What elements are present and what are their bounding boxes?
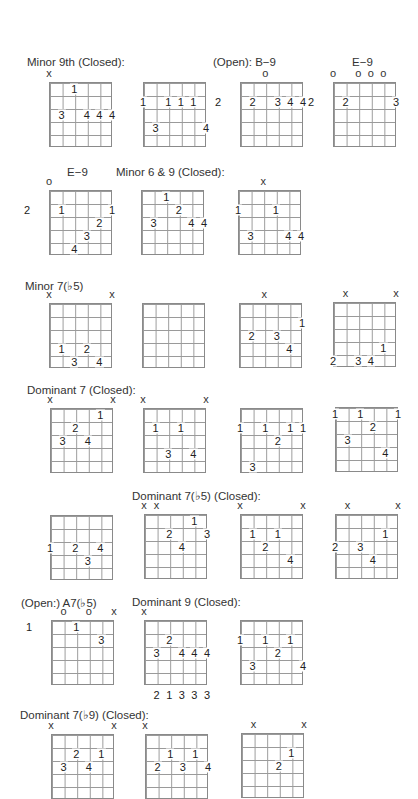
finger-number: 4 — [285, 343, 293, 354]
chord-diagram: x1234 — [239, 303, 302, 368]
chord-diagram: x11344 — [238, 190, 301, 255]
chord-diagram: 111134 — [143, 82, 206, 147]
finger-number: 1 — [249, 528, 257, 539]
fretboard-grid — [335, 514, 398, 579]
chord-diagram: 111234 — [335, 407, 398, 472]
section-label: Minor 7(♭5) — [25, 279, 83, 293]
finger-number: 1 — [381, 528, 389, 539]
finger-number: 2 — [175, 204, 183, 215]
open-string-marker: o — [86, 606, 92, 617]
finger-number: 2 — [274, 435, 282, 446]
finger-number: 3 — [60, 761, 68, 772]
chord-diagram: xx1234 — [333, 302, 396, 367]
finger-number: 1 — [108, 204, 116, 215]
finger-number: 4 — [381, 447, 389, 458]
finger-number: 2 — [248, 330, 256, 341]
chord-diagram: o112342 — [49, 190, 112, 255]
finger-number: 1 — [272, 204, 280, 215]
finger-number: 4 — [286, 96, 294, 107]
fretboard-grid — [143, 408, 206, 473]
fretboard-grid — [333, 302, 396, 367]
chord-diagram: 111234 — [240, 620, 303, 685]
finger-number: 3 — [273, 330, 281, 341]
muted-string-marker: x — [111, 720, 117, 731]
finger-number: 4 — [203, 647, 211, 658]
muted-string-marker: x — [300, 500, 306, 511]
open-string-marker: o — [368, 68, 374, 79]
finger-number: 2 — [72, 748, 80, 759]
fretboard-grid — [240, 82, 303, 147]
finger-number: 1 — [331, 408, 339, 419]
finger-number: 3 — [152, 122, 160, 133]
fretboard-grid — [143, 82, 206, 147]
finger-number: 2 — [165, 528, 173, 539]
muted-string-marker: x — [345, 500, 351, 511]
muted-string-marker: x — [260, 176, 266, 187]
fret-position-number: 2 — [308, 96, 314, 107]
finger-number: 2 — [274, 647, 282, 658]
bottom-finger-label: 3 — [191, 690, 197, 701]
finger-number: 1 — [166, 748, 174, 759]
finger-number: 1 — [164, 96, 172, 107]
fretboard-grid — [241, 733, 304, 798]
muted-string-marker: x — [109, 289, 115, 300]
muted-string-marker: x — [48, 720, 54, 731]
open-string-marker: o — [46, 176, 52, 187]
finger-number: 1 — [234, 204, 242, 215]
finger-number: 1 — [356, 408, 364, 419]
finger-number: 3 — [344, 434, 352, 445]
finger-number: 4 — [108, 109, 116, 120]
finger-number: 1 — [191, 748, 199, 759]
bottom-finger-label: 1 — [166, 690, 172, 701]
finger-number: 4 — [95, 109, 103, 120]
finger-number: 1 — [152, 422, 160, 433]
finger-number: 3 — [58, 109, 66, 120]
muted-string-marker: x — [46, 289, 52, 300]
finger-number: 1 — [236, 422, 244, 433]
finger-number: 2 — [275, 760, 283, 771]
open-string-marker: o — [380, 68, 386, 79]
chord-diagram: 111123 — [240, 408, 303, 473]
finger-number: 4 — [95, 356, 103, 367]
muted-string-marker: x — [261, 289, 267, 300]
open-string-marker: o — [262, 68, 268, 79]
finger-number: 3 — [392, 96, 400, 107]
finger-number: 3 — [249, 461, 257, 472]
chord-diagram: xx1234 — [50, 408, 113, 473]
muted-string-marker: x — [395, 500, 401, 511]
muted-string-marker: x — [393, 288, 399, 299]
chord-diagram: o23442 — [240, 82, 303, 147]
muted-string-marker: x — [47, 394, 53, 405]
finger-number: 1 — [299, 422, 307, 433]
finger-number: 3 — [83, 230, 91, 241]
finger-number: 4 — [200, 217, 208, 228]
section-label: Dominant 7(♭9) (Closed): — [20, 708, 149, 722]
finger-number: 2 — [369, 421, 377, 432]
finger-number: 1 — [177, 422, 185, 433]
finger-number: 2 — [261, 541, 269, 552]
chord-diagram: oox131 — [51, 620, 114, 685]
finger-number: 4 — [284, 230, 292, 241]
muted-string-marker: x — [237, 500, 243, 511]
finger-number: 2 — [329, 355, 337, 366]
muted-string-marker: x — [111, 606, 117, 617]
finger-number: 4 — [367, 355, 375, 366]
finger-number: 3 — [150, 217, 158, 228]
finger-number: 4 — [299, 96, 307, 107]
finger-number: 1 — [379, 342, 387, 353]
muted-string-marker: x — [251, 719, 257, 730]
muted-string-marker: x — [140, 394, 146, 405]
finger-number: 2 — [154, 761, 162, 772]
finger-number: 4 — [96, 542, 104, 553]
finger-number: 1 — [236, 634, 244, 645]
finger-number: 1 — [58, 204, 66, 215]
chord-diagram: xx12 — [241, 733, 304, 798]
chord-diagram — [142, 303, 205, 368]
finger-number: 1 — [58, 343, 66, 354]
finger-number: 3 — [203, 528, 211, 539]
fretboard-grid — [238, 190, 301, 255]
finger-number: 1 — [189, 96, 197, 107]
chord-diagram: xx2134 — [51, 734, 114, 799]
bottom-finger-label: 2 — [154, 690, 160, 701]
finger-number: 1 — [177, 96, 185, 107]
